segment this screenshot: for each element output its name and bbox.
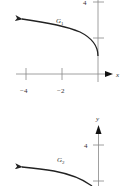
g1-curve-label: G1 <box>56 17 64 26</box>
graphs-figure: 4 x −4 −2 G1 y 4 G2 <box>0 0 129 186</box>
graph-g2: y 4 G2 <box>22 115 104 186</box>
g1-x-axis-label: x <box>115 71 120 79</box>
g2-curve-label: G2 <box>57 156 65 165</box>
g2-y-axis-label: y <box>95 115 100 123</box>
graph-g1: 4 x −4 −2 G1 <box>16 0 120 95</box>
g1-x-tick-label-neg2: −2 <box>57 87 65 95</box>
g2-y-tick-label: 4 <box>84 142 88 150</box>
g1-x-axis-arrow-icon <box>105 71 113 77</box>
g1-x-tick-label-neg4: −4 <box>20 87 28 95</box>
g1-y-tick-label: 4 <box>83 0 87 7</box>
g2-curve <box>22 167 92 186</box>
g2-y-axis-arrow-icon <box>96 125 102 134</box>
